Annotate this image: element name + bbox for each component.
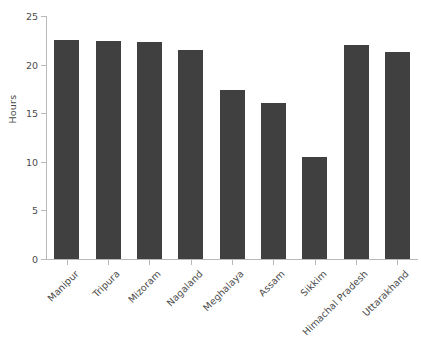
bar (220, 90, 245, 259)
x-axis-label: Manipur (45, 268, 81, 304)
bar (261, 103, 286, 259)
y-axis-tick-label: 0 (0, 254, 38, 265)
plot-area (46, 16, 418, 259)
x-axis-label: Assam (257, 268, 287, 298)
y-axis-tick (41, 259, 46, 260)
y-axis-tick-label: 25 (0, 11, 38, 22)
bar (385, 52, 410, 259)
x-axis-tick (356, 260, 357, 265)
x-axis-label: Nagaland (164, 268, 204, 308)
x-axis-tick (108, 260, 109, 265)
x-axis-tick (273, 260, 274, 265)
bar (54, 40, 79, 259)
bar (344, 45, 369, 259)
x-axis-label: Meghalaya (201, 268, 246, 313)
x-axis-label: Mizoram (126, 268, 163, 305)
x-axis-tick (232, 260, 233, 265)
bar (302, 157, 327, 259)
y-axis-tick-label: 10 (0, 156, 38, 167)
x-axis-tick (67, 260, 68, 265)
y-axis-tick-label: 5 (0, 205, 38, 216)
bar (96, 41, 121, 259)
bar (178, 50, 203, 259)
x-axis-tick (315, 260, 316, 265)
x-axis-tick (397, 260, 398, 265)
bar-chart: Hours 0510152025 ManipurTripuraMizoramNa… (0, 0, 421, 343)
x-axis-tick (149, 260, 150, 265)
x-axis-label: Sikkim (298, 268, 329, 299)
y-axis-tick-label: 15 (0, 108, 38, 119)
x-axis-tick (191, 260, 192, 265)
bar (137, 42, 162, 259)
y-axis-tick-label: 20 (0, 59, 38, 70)
x-axis-label: Tripura (90, 268, 121, 299)
